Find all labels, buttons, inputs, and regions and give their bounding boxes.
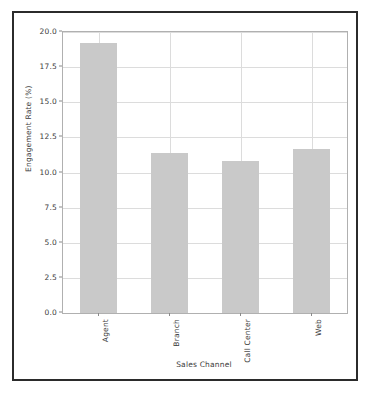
y-tick-label: 0.0 [44, 308, 57, 317]
y-tick-label: 7.5 [44, 202, 57, 211]
y-tick-mark [59, 276, 62, 277]
x-tick-label: Call Center [243, 319, 252, 363]
y-tick-mark [59, 31, 62, 32]
x-axis-title: Sales Channel [62, 360, 346, 369]
bar-call-center [222, 161, 259, 313]
y-tick-label: 2.5 [44, 272, 57, 281]
plot-area [62, 31, 348, 314]
bar-agent [80, 43, 117, 313]
y-tick-label: 12.5 [40, 132, 58, 141]
bar-web [293, 149, 330, 313]
y-tick-label: 10.0 [40, 167, 58, 176]
figure-frame: Engagement Rate (%) Sales Channel 0.02.5… [12, 11, 358, 381]
y-tick-mark [59, 312, 62, 313]
x-tick-mark [311, 313, 312, 316]
y-tick-label: 15.0 [40, 97, 58, 106]
y-gridline [63, 32, 347, 33]
y-tick-mark [59, 241, 62, 242]
x-tick-label: Web [314, 319, 323, 336]
x-tick-label: Agent [101, 319, 110, 342]
y-tick-label: 5.0 [44, 237, 57, 246]
bar-branch [151, 153, 188, 313]
y-tick-mark [59, 66, 62, 67]
y-tick-mark [59, 206, 62, 207]
y-tick-label: 20.0 [40, 27, 58, 36]
x-tick-mark [240, 313, 241, 316]
y-tick-mark [59, 171, 62, 172]
y-tick-mark [59, 101, 62, 102]
x-tick-label: Branch [172, 319, 181, 347]
y-tick-mark [59, 136, 62, 137]
x-tick-mark [98, 313, 99, 316]
y-tick-label: 17.5 [40, 62, 58, 71]
chart-screenshot: Engagement Rate (%) Sales Channel 0.02.5… [0, 0, 372, 397]
x-tick-mark [169, 313, 170, 316]
